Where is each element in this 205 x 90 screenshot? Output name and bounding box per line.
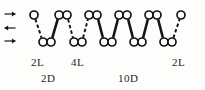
label-2D: 2D: [41, 73, 55, 84]
node-circle-top: [177, 11, 185, 19]
node-circle-top: [55, 11, 63, 19]
node-circle-bottom: [168, 38, 176, 46]
label-4L: 4L: [71, 57, 84, 68]
node-circle-top: [93, 11, 101, 19]
bond-thick: [52, 19, 58, 38]
diagram-canvas: 2L4L2L2D10D: [0, 0, 205, 90]
node-circle-bottom: [108, 38, 116, 46]
bond-thin: [83, 19, 88, 37]
node-circle-top: [153, 11, 161, 19]
arrow-head: [12, 11, 16, 16]
node-circle-top: [123, 11, 131, 19]
label-10D: 10D: [118, 73, 138, 84]
node-circle-bottom: [39, 38, 47, 46]
bond-thick: [143, 19, 148, 37]
node-circle-bottom: [100, 38, 108, 46]
bond-thin: [68, 19, 73, 37]
arrow-top-icon: [5, 11, 16, 16]
label-2L-right: 2L: [172, 57, 185, 68]
arrow-middle-icon: [5, 25, 16, 30]
arrow-head: [5, 25, 9, 30]
bond-thick: [113, 19, 118, 37]
bond-thin: [35, 19, 41, 38]
bond-thin: [173, 19, 179, 38]
node-circle-bottom: [160, 38, 168, 46]
bond-thick: [128, 19, 133, 37]
node-circle-top: [85, 11, 93, 19]
arrow-head: [12, 38, 16, 43]
bond-thick: [158, 19, 163, 37]
node-circle-top: [145, 11, 153, 19]
node-circle-bottom: [47, 38, 55, 46]
bond-thick: [98, 19, 103, 37]
node-circle-top: [115, 11, 123, 19]
node-circle-top: [63, 11, 71, 19]
node-circle-bottom: [138, 38, 146, 46]
label-2L-left: 2L: [31, 57, 44, 68]
node-circle-bottom: [70, 38, 78, 46]
arrow-layer: [5, 11, 16, 43]
node-circle-bottom: [78, 38, 86, 46]
node-circle-top: [30, 11, 38, 19]
arrow-bottom-icon: [5, 38, 16, 43]
chain-diagram: [0, 0, 205, 90]
bond-layer: [35, 19, 179, 38]
node-circle-bottom: [130, 38, 138, 46]
